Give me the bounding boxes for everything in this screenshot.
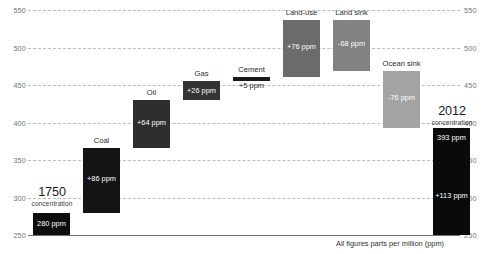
ytick-left-350: 350 [2,157,26,164]
bar-cement[interactable] [233,77,270,81]
start-callout-year: 1750 [26,186,78,199]
annotation-start-callout: 1750 concentration [26,186,78,207]
bar-coal[interactable]: +86 ppm [83,148,120,213]
bar-label-gas: Gas [183,70,220,78]
ytick-left-250: 250 [2,232,26,239]
ytick-right-550: 550 [464,7,489,14]
bar-land-use[interactable]: +76 ppm [283,20,320,77]
ytick-left-550: 550 [2,7,26,14]
bar-label-coal: Coal [83,137,120,145]
bar-value-end-total: 393 ppm [433,134,470,141]
ytick-left-450: 450 [2,82,26,89]
plot-area: 250 300 350 400 450 500 550 250 300 350 … [28,10,460,235]
bar-value-start-total: 280 ppm [33,220,70,227]
bar-value-ocean-sink: -76 ppm [383,94,420,101]
bar-value-gas: +26 ppm [183,87,220,94]
bar-label-oil: Oil [133,89,170,97]
end-callout-year: 2012 [426,105,478,118]
ytick-left-500: 500 [2,45,26,52]
end-callout-sub: concentration [426,120,478,127]
bar-gas[interactable]: +26 ppm [183,81,220,101]
ytick-left-300: 300 [2,195,26,202]
start-callout-sub: concentration [26,201,78,208]
bar-label-land-use: Land-use [278,9,325,17]
bar-oil[interactable]: +64 ppm [133,100,170,148]
gridline-250 [28,235,460,236]
ytick-right-450: 450 [464,82,489,89]
bar-land-sink[interactable]: -68 ppm [333,20,370,71]
bar-value-land-sink: -68 ppm [333,40,370,47]
bar-value-coal: +86 ppm [83,175,120,182]
chart-footnote: All figures parts per million (ppm) [336,240,444,247]
bar-value-end-net: +113 ppm [433,192,470,199]
bar-value-land-use: +76 ppm [283,43,320,50]
gridline-500 [28,48,460,49]
bar-label-cement: Cement [230,66,273,74]
ytick-right-500: 500 [464,45,489,52]
annotation-end-callout: 2012 concentration [426,105,478,126]
bar-start-total[interactable]: 280 ppm [33,213,70,236]
bar-label-ocean-sink: Ocean sink [378,60,425,68]
waterfall-chart: 250 300 350 400 450 500 550 250 300 350 … [0,0,489,254]
bar-value-oil: +64 ppm [133,119,170,126]
bar-value-cement: +5 ppm [230,82,273,89]
bar-ocean-sink[interactable]: -76 ppm [383,71,420,128]
ytick-left-400: 400 [2,120,26,127]
bar-end-total[interactable]: 393 ppm +113 ppm [433,128,470,235]
gridline-550 [28,10,460,11]
bar-label-land-sink: Land sink [328,9,375,17]
